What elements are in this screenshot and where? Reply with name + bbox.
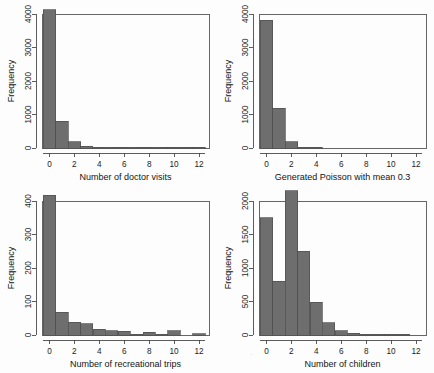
x-tick-label: 2	[289, 347, 294, 356]
chart-panel-doctor-visits: 024681012Number of doctor visits01000200…	[0, 0, 217, 186]
x-tick-label: 10	[387, 347, 397, 356]
histogram-bar	[298, 251, 310, 335]
x-tick-label: 4	[314, 160, 319, 169]
x-axis-title: Number of doctor visits	[79, 172, 172, 182]
x-tick-label: 4	[314, 347, 319, 356]
histogram-bar	[397, 334, 409, 335]
histogram-bar	[131, 334, 143, 335]
x-axis-title: Generated Poisson with mean 0.3	[275, 172, 411, 182]
y-tick-label: 4000	[24, 4, 33, 23]
chart-svg-doctor-visits: 024681012Number of doctor visits01000200…	[0, 0, 217, 186]
x-tick-label: 4	[97, 160, 102, 169]
histogram-bar	[348, 333, 360, 335]
histogram-bar	[43, 10, 55, 148]
x-tick-label: 6	[339, 347, 344, 356]
y-axis-title: Frequency	[223, 246, 233, 289]
x-tick-label: 8	[364, 160, 369, 169]
y-tick-label: 1000	[241, 105, 250, 124]
histogram-bar	[131, 147, 143, 148]
y-tick-label: 0	[241, 332, 250, 337]
y-tick-label: 200	[24, 261, 33, 275]
y-tick-label: 0	[24, 332, 33, 337]
x-tick-label: 2	[72, 160, 77, 169]
histogram-bar	[68, 142, 80, 148]
x-tick-label: 10	[170, 160, 180, 169]
x-tick-label: 4	[97, 347, 102, 356]
chart-panel-number-of-children: 024681012Number of children0500100015002…	[217, 187, 434, 373]
histogram-bar	[360, 334, 372, 335]
x-tick-label: 0	[264, 347, 269, 356]
histogram-bar	[156, 147, 168, 148]
histogram-bar	[81, 146, 93, 148]
x-tick-label: 2	[72, 347, 77, 356]
histogram-bar	[180, 147, 192, 148]
chart-svg-recreational-trips: 024681012Number of recreational trips010…	[0, 187, 217, 373]
histogram-bar	[93, 329, 105, 335]
histogram-bar	[193, 334, 205, 335]
x-tick-label: 8	[147, 347, 152, 356]
x-tick-label: 12	[194, 160, 204, 169]
y-axis-title: Frequency	[223, 59, 233, 102]
histogram-bar	[118, 331, 130, 335]
x-tick-label: 2	[289, 160, 294, 169]
histogram-bar	[81, 324, 93, 335]
x-tick-label: 6	[122, 160, 127, 169]
x-tick-label: 0	[264, 160, 269, 169]
y-tick-label: 1500	[241, 225, 250, 244]
y-tick-label: 100	[24, 294, 33, 308]
y-tick-label: 0	[241, 145, 250, 150]
x-axis-title: Number of children	[304, 359, 380, 369]
chart-panel-recreational-trips: 024681012Number of recreational trips010…	[0, 187, 217, 373]
histogram-bar	[298, 147, 310, 148]
histogram-bar	[56, 121, 68, 148]
x-tick-label: 10	[170, 347, 180, 356]
histogram-bar	[106, 331, 118, 335]
y-tick-label: 2000	[241, 71, 250, 90]
histogram-bar	[56, 312, 68, 335]
histogram-bar	[310, 147, 322, 148]
histogram-bar	[193, 147, 205, 148]
y-tick-label: 3000	[24, 38, 33, 57]
histogram-bar	[43, 195, 55, 335]
x-tick-label: 12	[194, 347, 204, 356]
y-tick-label: 500	[241, 294, 250, 308]
histogram-bar	[273, 281, 285, 335]
x-tick-label: 0	[47, 347, 52, 356]
y-tick-label: 400	[24, 194, 33, 208]
y-tick-label: 3000	[241, 38, 250, 57]
x-tick-label: 12	[411, 347, 421, 356]
x-tick-label: 0	[47, 160, 52, 169]
x-tick-label: 6	[339, 160, 344, 169]
histogram-bar	[260, 218, 272, 335]
histogram-bar	[323, 323, 335, 335]
x-tick-label: 10	[387, 160, 397, 169]
histogram-bar	[385, 334, 397, 335]
y-tick-label: 0	[24, 145, 33, 150]
chart-panel-generated-poisson: 024681012Generated Poisson with mean 0.3…	[217, 0, 434, 186]
x-tick-label: 8	[147, 160, 152, 169]
x-tick-label: 12	[411, 160, 421, 169]
histogram-bar	[373, 334, 385, 335]
y-tick-label: 2000	[24, 71, 33, 90]
histogram-bar	[285, 142, 297, 148]
histogram-bar	[143, 332, 155, 335]
histogram-figure: 024681012Number of doctor visits01000200…	[0, 0, 434, 373]
histogram-bar	[168, 147, 180, 148]
y-tick-label: 300	[24, 227, 33, 241]
histogram-bar	[335, 331, 347, 335]
histogram-bar	[273, 108, 285, 148]
y-tick-label: 1000	[24, 105, 33, 124]
y-axis-title: Frequency	[6, 246, 16, 289]
x-tick-label: 6	[122, 347, 127, 356]
histogram-bar	[143, 147, 155, 148]
chart-svg-number-of-children: 024681012Number of children0500100015002…	[217, 187, 434, 373]
chart-svg-generated-poisson: 024681012Generated Poisson with mean 0.3…	[217, 0, 434, 186]
y-axis-title: Frequency	[6, 59, 16, 102]
y-tick-label: 4000	[241, 4, 250, 23]
histogram-bar	[118, 147, 130, 148]
y-tick-label: 2000	[241, 191, 250, 210]
x-axis-title: Number of recreational trips	[70, 359, 182, 369]
histogram-bar	[285, 191, 297, 335]
histogram-bar	[310, 302, 322, 335]
histogram-bar	[93, 147, 105, 148]
